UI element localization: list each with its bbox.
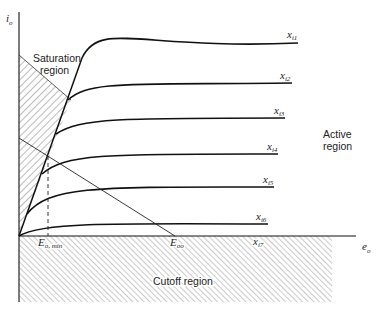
y-axis-label: io bbox=[6, 12, 13, 27]
cutoff-label: Cutoff region bbox=[153, 275, 213, 287]
curve-xi5 bbox=[27, 187, 274, 214]
curve-label-xi5: xi5 bbox=[262, 173, 274, 187]
x-axis-label: eo bbox=[362, 240, 371, 255]
curve-xi1 bbox=[82, 38, 298, 58]
active-label-line1: Active bbox=[323, 128, 352, 140]
active-label-line2: region bbox=[323, 140, 352, 152]
curve-label-xi4: xi4 bbox=[266, 140, 278, 154]
curve-xi2 bbox=[68, 83, 292, 100]
saturation-label-line1: Saturation bbox=[33, 52, 81, 64]
curve-xi4 bbox=[42, 154, 278, 174]
curve-label-xi3: xi3 bbox=[273, 104, 285, 118]
saturation-label-line2: region bbox=[40, 64, 69, 76]
curve-label-xi1: xi1 bbox=[286, 28, 297, 42]
curve-xi6 bbox=[19, 224, 268, 236]
curve-xi3 bbox=[56, 118, 285, 134]
curve-label-xi2: xi2 bbox=[279, 69, 291, 83]
saturation-region-hatch bbox=[19, 55, 71, 235]
curve-label-xi6: xi6 bbox=[255, 210, 267, 224]
characteristic-diagram: io eo Saturation region Active region Cu… bbox=[0, 0, 382, 310]
